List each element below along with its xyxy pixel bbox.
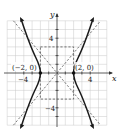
x-axis-label: x [112,74,117,83]
vertex-left-label: (−2, 0) [12,64,37,72]
tick-label-x-pos4: 4 [88,76,93,84]
vertex-right-label: (2, 0) [75,64,94,72]
vertex-left-point [39,71,43,75]
hyperbola-graph: y x −4 4 4 −4 (−2, 0) (2, 0) [0,0,122,129]
vertex-right-point [72,71,76,75]
y-axis-label: y [49,10,55,19]
tick-label-y-pos4: 4 [49,35,54,43]
tick-label-x-neg4: −4 [18,76,29,84]
tick-label-y-neg4: −4 [45,105,56,113]
y-axis-arrow-icon [55,13,58,17]
